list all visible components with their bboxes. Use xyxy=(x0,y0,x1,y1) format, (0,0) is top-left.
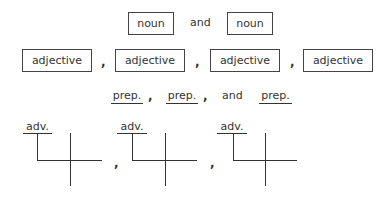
adjective-box-1: adjective xyxy=(22,49,92,72)
adv-connector-line xyxy=(37,133,38,160)
adv-label: adv. xyxy=(23,121,52,132)
adjective-box-4: adjective xyxy=(303,49,373,72)
prep-underline-2 xyxy=(166,103,198,104)
comma-separator: , xyxy=(210,157,215,169)
comma-separator: , xyxy=(195,56,200,68)
noun-label: noun xyxy=(236,17,264,30)
subject-verb-divider xyxy=(70,133,71,186)
noun-label: noun xyxy=(137,17,165,30)
noun-box-1: noun xyxy=(128,12,174,35)
subject-verb-divider xyxy=(265,133,266,186)
adv-connector-line xyxy=(233,133,234,160)
prep-underline-3 xyxy=(259,103,292,104)
comma-separator: , xyxy=(148,90,153,102)
prep-label-1: prep. xyxy=(111,90,143,101)
comma-separator: , xyxy=(290,56,295,68)
adjective-box-3: adjective xyxy=(210,49,280,72)
prep-underline-1 xyxy=(111,103,143,104)
conjunction-and-nouns: and xyxy=(190,17,211,28)
comma-separator: , xyxy=(114,157,119,169)
adjective-box-2: adjective xyxy=(115,49,185,72)
adv-underline xyxy=(217,133,247,134)
adv-label: adv. xyxy=(117,121,147,132)
adjective-label: adjective xyxy=(220,54,270,67)
prep-label-2: prep. xyxy=(166,90,198,101)
adv-label: adv. xyxy=(217,121,247,132)
adjective-label: adjective xyxy=(125,54,175,67)
subject-verb-divider xyxy=(165,133,166,186)
comma-separator: , xyxy=(203,90,208,102)
noun-box-2: noun xyxy=(227,12,273,35)
adjective-label: adjective xyxy=(313,54,363,67)
comma-separator: , xyxy=(101,56,106,68)
conjunction-and-preps: and xyxy=(222,90,243,101)
adv-connector-line xyxy=(132,133,133,160)
prep-label-3: prep. xyxy=(259,90,292,101)
adjective-label: adjective xyxy=(32,54,82,67)
